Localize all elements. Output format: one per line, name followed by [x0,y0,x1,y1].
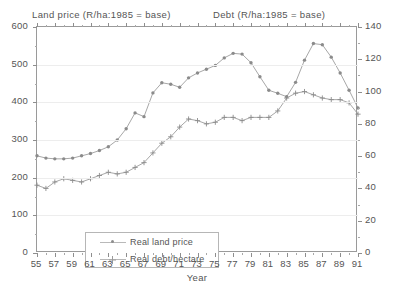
dot-marker-icon [347,89,350,92]
left-axis-title: Land price (R/ha:1985 = base) [32,9,171,20]
x-axis-tick-top [260,25,261,27]
dot-marker-icon [107,145,110,148]
x-axis-tick [189,253,190,255]
dot-marker-icon [160,81,163,84]
x-axis-tick [322,253,323,257]
plus-marker-icon [231,115,236,120]
dot-marker-icon [196,71,199,74]
y-axis-tick-label: 400 [0,95,28,106]
y2-axis-tick [358,124,362,125]
y-axis-minor-tick [35,234,37,235]
dot-marker-icon [330,55,333,58]
dot-marker-icon [267,89,270,92]
x-axis-tick-top [224,25,225,27]
x-axis-tick [46,253,47,255]
x-axis-tick [171,253,172,255]
y-axis-minor-tick [35,159,37,160]
x-axis-tick [91,253,92,257]
plus-marker-icon [115,171,120,176]
plus-marker-icon [320,95,325,100]
x-axis-tick-top [144,23,145,27]
dot-marker-icon [205,67,208,70]
y2-axis-tick-label: 140 [365,20,381,31]
x-axis-tick [260,253,261,255]
plot-area: Real land price Real debt/hectare [36,26,357,252]
gridline [37,65,358,66]
x-axis-tick [37,253,38,257]
dot-marker-icon [62,157,65,160]
legend-item-land-price: Real land price [86,234,220,252]
y2-axis-tick [358,188,362,189]
x-axis-tick [331,253,332,255]
x-axis-tick-top [340,23,341,27]
y-axis-tick [33,65,37,66]
x-axis-tick-top [189,25,190,27]
y2-axis-minor-tick [358,205,360,206]
y2-axis-minor-tick [358,237,360,238]
x-axis-tick-top [126,23,127,27]
y2-axis-tick-label: 120 [365,52,381,63]
x-axis-tick [269,253,270,257]
y-axis-tick [33,215,37,216]
dot-marker-icon [240,52,243,55]
y-axis-minor-tick [35,121,37,122]
x-axis-tick [64,253,65,255]
x-axis-tick-top [162,23,163,27]
x-axis-tick [108,253,109,257]
x-axis-tick-top [305,23,306,27]
gridline [37,215,358,216]
plus-marker-icon [213,120,218,125]
y2-axis-tick [358,92,362,93]
y-axis-minor-tick [35,197,37,198]
y2-axis-tick [358,156,362,157]
x-axis-tick-top [55,23,56,27]
plus-marker-icon [195,118,200,123]
x-axis-tick-top [171,25,172,27]
dot-marker-icon [338,71,341,74]
x-axis-tick [180,253,181,257]
x-axis-tick [135,253,136,255]
plus-marker-icon [293,91,298,96]
plus-marker-icon [302,89,307,94]
y2-axis-tick-label: 40 [365,181,376,192]
x-axis-tick [287,253,288,257]
x-axis-tick-top [153,25,154,27]
x-axis-tick [251,253,252,257]
x-axis-tick [278,253,279,255]
plus-marker-icon [311,92,316,97]
x-axis-tick-top [37,23,38,27]
x-axis-tick [242,253,243,255]
plus-marker-icon [257,115,262,120]
x-axis-tick-top [233,23,234,27]
dot-marker-icon [321,43,324,46]
x-axis-tick [144,253,145,257]
y-axis-tick [33,27,37,28]
right-axis-title: Debt (R/ha:1985 = base) [213,9,325,20]
y2-axis-minor-tick [358,140,360,141]
dot-marker-icon [223,56,226,59]
y2-axis-minor-tick [358,43,360,44]
y-axis-minor-tick [35,46,37,47]
x-axis-tick [126,253,127,257]
y-axis-tick-label: 300 [0,133,28,144]
x-axis-tick-top [242,25,243,27]
x-axis-tick-top [99,25,100,27]
x-axis-tick-top [287,23,288,27]
plus-marker-icon [79,179,84,184]
x-axis-tick-label: 91 [345,258,369,269]
y2-axis-tick [358,221,362,222]
y2-axis-minor-tick [358,75,360,76]
dot-marker-icon [133,111,136,114]
x-axis-tick-top [73,23,74,27]
x-axis-tick-top [198,23,199,27]
x-axis-title: Year [0,272,394,283]
dot-marker-icon [71,156,74,159]
y2-axis-minor-tick [358,172,360,173]
y2-axis-tick-label: 100 [365,85,381,96]
series-line [37,44,358,159]
dot-marker-icon [111,240,114,243]
x-axis-tick [198,253,199,257]
plus-marker-icon [204,121,209,126]
x-axis-tick [206,253,207,255]
dot-marker-icon [151,91,154,94]
